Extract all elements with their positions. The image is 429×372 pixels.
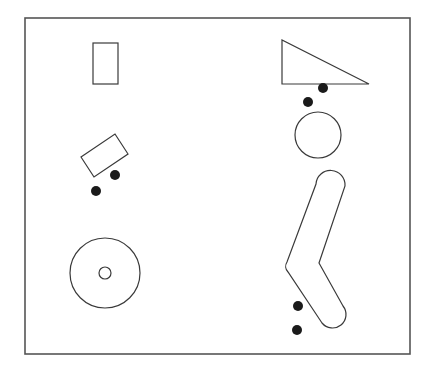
capsule-contact-2-point: [292, 325, 302, 335]
diagram-canvas: [0, 0, 429, 372]
triangle-contact-1-point: [318, 83, 328, 93]
rotated-rect-contact-1-point: [110, 170, 120, 180]
triangle-contact-2-point: [303, 97, 313, 107]
workspace-frame: [25, 18, 410, 354]
rotated-rect-contact-2-point: [91, 186, 101, 196]
capsule-contact-1-point: [293, 301, 303, 311]
